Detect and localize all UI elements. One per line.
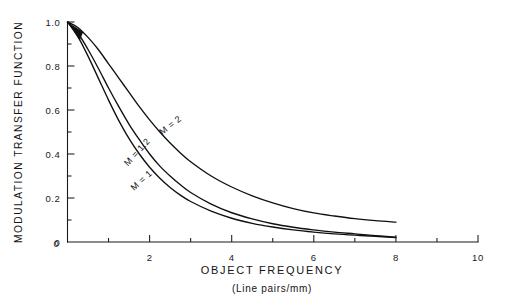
x-axis-tick-label: 2 (147, 252, 153, 263)
y-axis-tick-label: 0.4 (45, 149, 60, 160)
x-axis-tick-label: 8 (393, 252, 399, 263)
y-axis-ticks (68, 22, 75, 220)
y-axis-tick-labels: 00.20.40.60.81.0 (45, 17, 60, 248)
y-axis-tick-label: 0.2 (45, 193, 60, 204)
x-axis-tick-label: 10 (472, 252, 484, 263)
chart-plot-area: 0246810 00.20.40.60.81.0 M = 2M = 1.2M =… (0, 0, 509, 301)
y-axis-tick-label: 0 (55, 237, 61, 248)
mtf-curves-group (68, 22, 396, 238)
mtf-chart-figure: 0246810 00.20.40.60.81.0 M = 2M = 1.2M =… (0, 0, 509, 301)
curve-origin-convergence (68, 22, 84, 41)
mtf-curve (68, 22, 396, 237)
curve-label: M = 2 (157, 114, 183, 137)
mtf-curve (68, 22, 396, 222)
y-axis-tick-label: 0.8 (45, 61, 60, 72)
mtf-curve (68, 22, 396, 238)
y-axis-tick-label: 1.0 (45, 17, 60, 28)
x-axis-tick-label: 6 (311, 252, 317, 263)
x-axis-ticks (109, 235, 478, 242)
x-axis-subtitle: (Line pairs/mm) (232, 283, 312, 294)
x-axis-tick-label: 4 (229, 252, 235, 263)
curve-labels-group: M = 2M = 1.2M = 1 (122, 114, 183, 193)
y-axis-tick-label: 0.6 (45, 105, 60, 116)
y-axis-title: MODULATION TRANSFER FUNCTION (13, 21, 24, 243)
curve-label: M = 1 (129, 168, 154, 192)
x-axis-title: OBJECT FREQUENCY (201, 264, 344, 276)
